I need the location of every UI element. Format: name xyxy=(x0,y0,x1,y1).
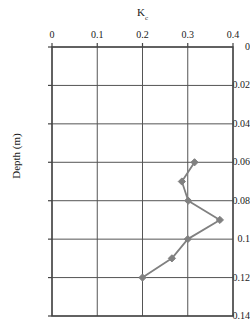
chart-figure: Kc 00.10.20.30.4 00.020.040.060.080.10.1… xyxy=(0,0,250,336)
axis-tick-marks xyxy=(48,43,233,316)
data-series-markers xyxy=(139,159,224,281)
plot-area xyxy=(0,0,250,336)
